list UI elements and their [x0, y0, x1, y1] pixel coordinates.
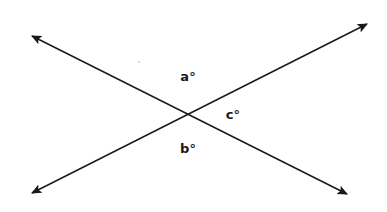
intersecting-lines-figure — [0, 0, 387, 212]
scan-artifact-speck — [138, 61, 140, 63]
line-ne-sw — [32, 24, 367, 193]
angle-label-c: c° — [226, 108, 241, 121]
angle-label-b: b° — [180, 142, 196, 155]
line-nw-se — [32, 36, 347, 194]
angle-diagram: a° c° b° — [0, 0, 387, 212]
angle-label-a: a° — [180, 70, 196, 83]
